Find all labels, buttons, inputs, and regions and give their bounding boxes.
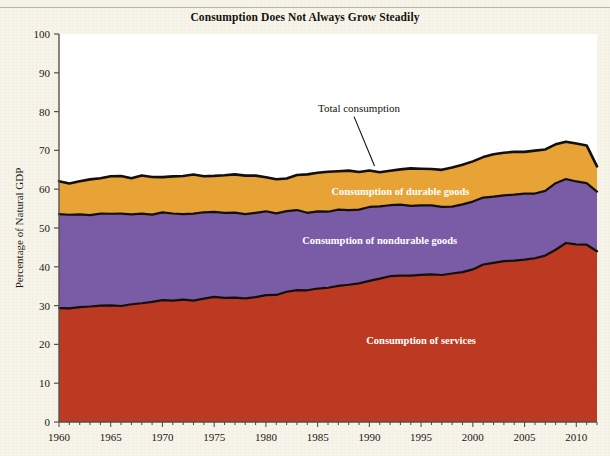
y-axis-tick-labels: 0102030405060708090100 xyxy=(34,28,51,428)
x-tick-label: 2000 xyxy=(462,431,485,443)
y-tick-label: 50 xyxy=(39,222,51,234)
annotation-nondurable-goods: Consumption of nondurable goods xyxy=(302,235,457,246)
stacked-area-series xyxy=(59,142,597,422)
x-tick-label: 2010 xyxy=(565,431,588,443)
chart-page: Consumption Does Not Always Grow Steadil… xyxy=(0,0,610,456)
x-tick-label: 1980 xyxy=(255,431,278,443)
x-tick-label: 1985 xyxy=(307,431,330,443)
y-tick-label: 60 xyxy=(39,183,51,195)
y-axis-title-text: Percentage of Natural GDP xyxy=(13,168,25,289)
y-tick-label: 0 xyxy=(45,416,51,428)
x-tick-label: 1960 xyxy=(48,431,71,443)
x-axis-tick-labels: 1960196519701975198019851990199520002005… xyxy=(48,431,588,443)
y-tick-label: 30 xyxy=(39,300,51,312)
x-tick-label: 2005 xyxy=(514,431,537,443)
y-tick-label: 90 xyxy=(39,67,51,79)
annotation-durable-goods: Consumption of durable goods xyxy=(331,186,469,197)
y-tick-label: 40 xyxy=(39,261,51,273)
y-tick-label: 20 xyxy=(39,338,51,350)
x-tick-label: 1995 xyxy=(410,431,433,443)
chart-plot-wrapper: 0102030405060708090100 19601965197019751… xyxy=(0,0,610,456)
area-chart-svg: 0102030405060708090100 19601965197019751… xyxy=(0,0,610,456)
annotation-services: Consumption of services xyxy=(366,335,476,346)
x-tick-label: 1990 xyxy=(358,431,381,443)
y-tick-label: 10 xyxy=(39,377,51,389)
x-tick-label: 1970 xyxy=(151,431,174,443)
annotation-total-consumption: Total consumption xyxy=(318,102,401,114)
y-axis-title: Percentage of Natural GDP xyxy=(13,168,25,289)
y-tick-label: 100 xyxy=(34,28,51,40)
x-tick-label: 1965 xyxy=(100,431,123,443)
y-tick-label: 70 xyxy=(39,144,51,156)
y-tick-label: 80 xyxy=(39,106,51,118)
x-tick-label: 1975 xyxy=(203,431,226,443)
